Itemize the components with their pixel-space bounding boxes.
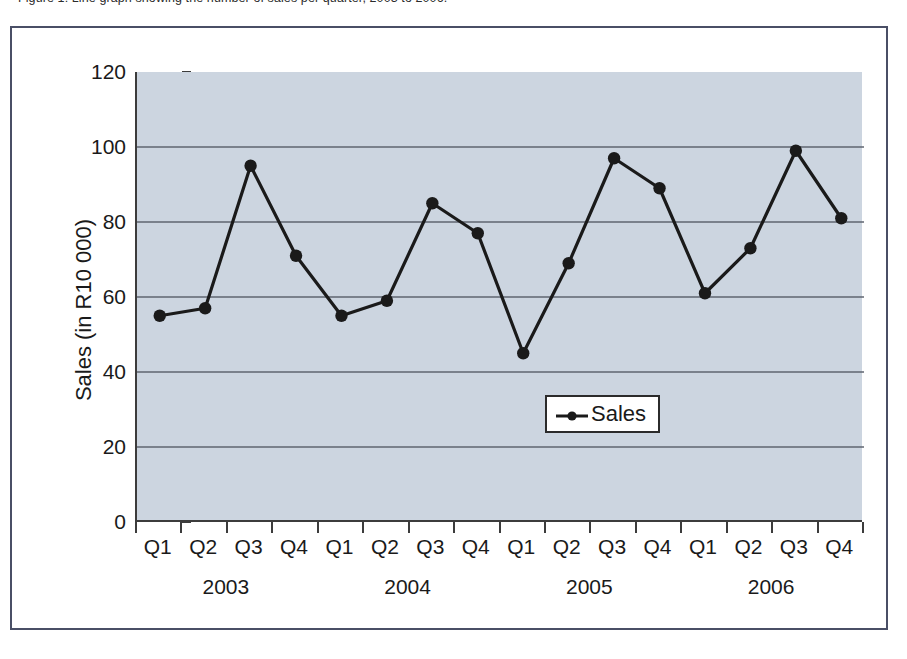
legend-line-dot-icon: [555, 410, 589, 422]
x-axis-quarter-label: Q3: [226, 536, 272, 557]
legend-marker-icon: [555, 408, 589, 420]
x-axis-tick-mark: [362, 522, 364, 533]
x-axis-tick-mark: [317, 522, 319, 533]
chart-legend: Sales: [545, 395, 660, 433]
data-point-marker: [562, 257, 574, 269]
x-axis-quarter-label: Q3: [407, 536, 453, 557]
x-axis-tick-mark: [226, 522, 228, 533]
figure-frame: Sales (in R10 000) 120100806040200 Q1Q2Q…: [10, 26, 888, 630]
x-axis-quarter-label: Q3: [589, 536, 635, 557]
x-axis-quarter-label: Q4: [635, 536, 681, 557]
x-axis-tick-mark: [726, 522, 728, 533]
x-axis-tick-mark: [180, 522, 182, 533]
x-axis-tick-mark: [817, 522, 819, 533]
x-axis-year-label: 2005: [534, 576, 644, 597]
x-axis-year-labels: 2003200420052006: [135, 576, 864, 606]
x-axis-quarter-label: Q3: [771, 536, 817, 557]
y-axis-tick-label: 100: [80, 136, 126, 157]
x-axis-quarter-label: Q2: [725, 536, 771, 557]
y-axis-tick-label: 0: [80, 511, 126, 532]
x-axis-tick-mark: [544, 522, 546, 533]
data-point-marker: [744, 242, 756, 254]
x-axis-quarter-label: Q4: [816, 536, 862, 557]
y-axis-tick-label: 120: [80, 61, 126, 82]
legend-entry-label: Sales: [591, 403, 646, 425]
y-axis-tick-labels: 120100806040200: [68, 72, 126, 522]
data-point-marker: [517, 347, 529, 359]
data-point-marker: [199, 302, 211, 314]
figure-caption: Figure 1: Line graph showing the number …: [18, 0, 447, 5]
data-point-marker: [699, 287, 711, 299]
data-point-marker: [790, 145, 802, 157]
x-axis-year-label: 2003: [171, 576, 281, 597]
x-axis-tick-mark: [408, 522, 410, 533]
data-point-marker: [244, 160, 256, 172]
x-axis-tick-mark: [862, 522, 864, 533]
x-axis-tick-mark: [453, 522, 455, 533]
y-axis-tick-label: 80: [80, 211, 126, 232]
x-axis-quarter-label: Q1: [680, 536, 726, 557]
series-line-sales: [160, 151, 842, 354]
x-axis-tick-mark: [680, 522, 682, 533]
x-axis-quarter-label: Q2: [362, 536, 408, 557]
data-point-marker: [290, 250, 302, 262]
x-axis-tick-marks: [135, 522, 864, 533]
y-axis-title-container: Sales (in R10 000): [34, 72, 64, 522]
data-point-marker: [472, 227, 484, 239]
caption-strip: Figure 1: Line graph showing the number …: [0, 0, 907, 14]
y-axis-tick-label: 60: [80, 286, 126, 307]
x-axis-quarter-labels: Q1Q2Q3Q4Q1Q2Q3Q4Q1Q2Q3Q4Q1Q2Q3Q4: [135, 536, 864, 566]
y-axis-tick-label: 20: [80, 436, 126, 457]
plot-svg: [137, 72, 864, 522]
x-axis-quarter-label: Q2: [180, 536, 226, 557]
x-axis-tick-mark: [499, 522, 501, 533]
y-axis-tick-label: 40: [80, 361, 126, 382]
data-point-marker: [381, 295, 393, 307]
data-point-marker: [835, 212, 847, 224]
data-point-marker: [653, 182, 665, 194]
x-axis-tick-mark: [589, 522, 591, 533]
data-point-marker: [426, 197, 438, 209]
x-axis-tick-mark: [635, 522, 637, 533]
x-axis-quarter-label: Q4: [271, 536, 317, 557]
x-axis-year-label: 2006: [716, 576, 826, 597]
line-chart: Sales (in R10 000) 120100806040200 Q1Q2Q…: [12, 28, 886, 628]
x-axis-tick-mark: [135, 522, 137, 533]
data-point-marker: [608, 152, 620, 164]
x-axis-tick-mark: [271, 522, 273, 533]
x-axis-quarter-label: Q1: [135, 536, 181, 557]
x-axis-year-label: 2004: [353, 576, 463, 597]
x-axis-quarter-label: Q1: [316, 536, 362, 557]
data-point-marker: [335, 310, 347, 322]
x-axis-quarter-label: Q4: [453, 536, 499, 557]
x-axis-quarter-label: Q2: [544, 536, 590, 557]
x-axis-tick-mark: [771, 522, 773, 533]
x-axis-quarter-label: Q1: [498, 536, 544, 557]
plot-area: [135, 72, 862, 522]
data-point-marker: [154, 310, 166, 322]
